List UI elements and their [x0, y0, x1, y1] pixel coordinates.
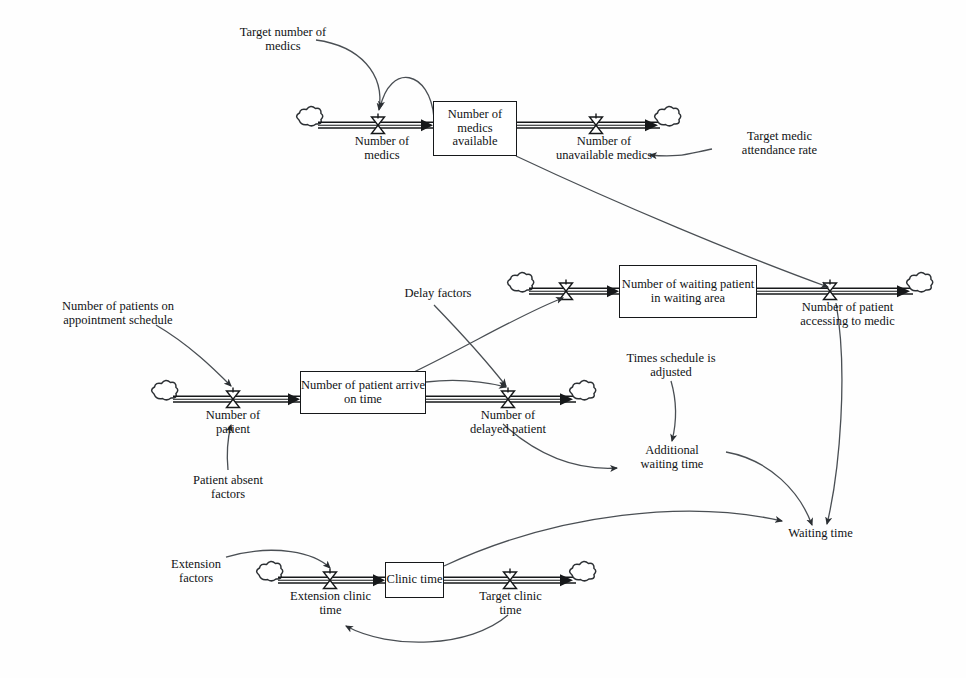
- flow-label-number-of-medics[interactable]: Number of medics: [337, 135, 427, 162]
- cloud-clinic-sink-icon: [570, 561, 596, 580]
- aux-label-number-of-patients-on-appointment-schedule[interactable]: Number of patients on appointment schedu…: [27, 300, 209, 327]
- stock-number-of-medics-available[interactable]: Number of medics available: [433, 101, 517, 156]
- valve-extension-clinic-time: [324, 569, 337, 589]
- flow-label-target-clinic-time[interactable]: Target clinic time: [458, 590, 563, 617]
- valve-number-of-delayed-patient: [502, 388, 515, 408]
- aux-label-extension-factors[interactable]: Extension factors: [146, 558, 246, 585]
- stock-flow-diagram: Number of medics available Number of pat…: [0, 0, 966, 678]
- connector-medics-available-to-number-of-medics: [380, 77, 434, 118]
- connector-arrive-on-time-to-delayed-patient: [426, 381, 506, 387]
- valve-target-clinic-time: [504, 569, 517, 589]
- aux-label-patient-absent-factors[interactable]: Patient absent factors: [168, 474, 288, 501]
- stock-clinic-time[interactable]: Clinic time: [385, 562, 444, 598]
- connector-target-clinic-time-to-extension-clinic-time: [346, 615, 508, 642]
- aux-label-target-number-of-medics[interactable]: Target number of medics: [213, 26, 353, 53]
- valve-number-of-medics: [372, 114, 385, 134]
- valve-number-of-patient: [227, 388, 240, 408]
- stock-number-of-patient-arrive-on-time[interactable]: Number of patient arrive on time: [300, 371, 426, 414]
- cloud-delayed-patient-sink-icon: [570, 380, 596, 399]
- connector-appointment-schedule-to-number-of-patient: [156, 325, 231, 386]
- connector-clinic-time-to-waiting-time: [444, 511, 782, 566]
- aux-label-target-medic-attendance-rate[interactable]: Target medic attendance rate: [712, 130, 847, 157]
- flow-label-extension-clinic-time[interactable]: Extension clinic time: [268, 590, 393, 617]
- valve-waiting-area-inflow: [560, 280, 573, 300]
- aux-label-additional-waiting-time[interactable]: Additional waiting time: [617, 444, 727, 471]
- flow-label-number-of-patient[interactable]: Number of patient: [183, 409, 283, 436]
- aux-label-times-schedule-is-adjusted[interactable]: Times schedule is adjusted: [601, 352, 741, 379]
- flow-label-number-of-delayed-patient[interactable]: Number of delayed patient: [443, 409, 573, 436]
- aux-label-waiting-time[interactable]: Waiting time: [768, 527, 873, 541]
- connector-arrive-on-time-to-waiting-area-inflow: [414, 298, 563, 372]
- valve-number-of-unavailable-medics: [590, 114, 603, 134]
- flow-label-number-of-patient-accessing-to-medic[interactable]: Number of patient accessing to medic: [770, 301, 925, 328]
- flow-label-number-of-unavailable-medics[interactable]: Number of unavailable medics: [529, 135, 679, 162]
- valve-number-of-patient-accessing-to-medic: [824, 280, 837, 300]
- connector-delay-factors-to-delayed-patient: [434, 305, 506, 386]
- aux-label-delay-factors[interactable]: Delay factors: [383, 287, 493, 301]
- cloud-medics-sink-icon: [655, 106, 681, 125]
- cloud-accessing-medic-sink-icon: [907, 272, 933, 291]
- connector-accessing-medic-to-waiting-time: [827, 303, 842, 524]
- connector-times-schedule-to-additional-waiting-time: [671, 381, 676, 441]
- stock-number-of-waiting-patient-in-waiting-area[interactable]: Number of waiting patient in waiting are…: [619, 265, 757, 318]
